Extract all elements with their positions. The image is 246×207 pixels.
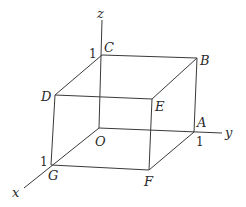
z-axis-label: z xyxy=(96,6,104,21)
vertex-label-c: C xyxy=(104,40,114,55)
vertex-label-o: O xyxy=(95,134,106,149)
edge-gf xyxy=(51,165,149,170)
cube-diagram: z y x 1 1 1 C B D E O A G F xyxy=(0,0,246,207)
vertex-label-f: F xyxy=(143,174,154,189)
edge-dg xyxy=(51,95,55,165)
edge-ed xyxy=(55,95,152,99)
y-axis-label: y xyxy=(224,125,233,140)
edge-ef xyxy=(149,99,152,170)
edge-cb xyxy=(102,55,197,58)
y-tick-1: 1 xyxy=(196,135,204,149)
x-axis-label: x xyxy=(12,185,20,200)
z-axis xyxy=(99,20,102,128)
x-axis xyxy=(24,128,99,188)
vertex-label-e: E xyxy=(154,99,165,114)
vertex-label-b: B xyxy=(199,53,210,68)
vertex-label-g: G xyxy=(48,168,58,183)
edge-be xyxy=(152,58,197,99)
edge-fa xyxy=(149,132,194,170)
z-tick-1: 1 xyxy=(89,47,97,61)
vertex-label-d: D xyxy=(40,89,52,104)
edge-dc xyxy=(55,55,102,95)
vertex-label-a: A xyxy=(196,115,206,130)
x-tick-1: 1 xyxy=(40,155,48,169)
